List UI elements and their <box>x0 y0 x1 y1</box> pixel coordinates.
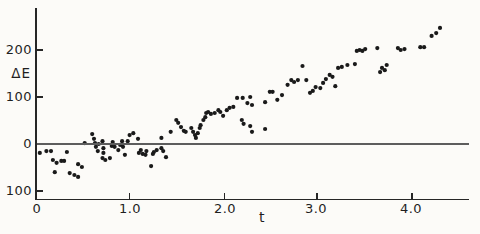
data-point <box>123 153 127 157</box>
data-point <box>80 165 84 169</box>
x-tick-2 <box>224 193 226 200</box>
data-point <box>275 98 279 102</box>
x-axis-line <box>35 199 469 201</box>
data-point <box>76 175 80 179</box>
data-point <box>402 47 406 51</box>
data-point <box>385 63 389 67</box>
data-point <box>250 130 254 134</box>
data-point <box>378 70 382 74</box>
data-point <box>245 101 249 105</box>
x-tick-label-1: 1.0 <box>116 202 144 216</box>
data-point <box>280 93 284 97</box>
data-point <box>96 149 100 153</box>
data-point <box>164 155 168 159</box>
data-point <box>136 137 140 141</box>
data-point <box>55 161 59 165</box>
data-point <box>330 75 334 79</box>
data-point <box>311 89 315 93</box>
data-point <box>231 105 235 109</box>
data-point <box>159 136 163 140</box>
y-axis-title: ΔE <box>0 66 31 81</box>
data-point <box>184 130 188 134</box>
data-point <box>248 95 252 99</box>
data-point <box>336 66 340 70</box>
data-point <box>101 151 105 155</box>
y-tick-label-neg-100: 100 <box>0 184 32 198</box>
data-point <box>179 125 183 129</box>
data-point <box>292 80 296 84</box>
data-point <box>51 158 55 162</box>
data-point <box>113 145 117 149</box>
data-point <box>250 103 254 107</box>
data-point <box>209 112 213 116</box>
data-point <box>318 86 322 90</box>
data-point <box>155 148 159 152</box>
data-point <box>116 148 120 152</box>
data-point <box>144 149 148 153</box>
data-point <box>324 77 328 81</box>
data-point <box>103 158 107 162</box>
data-point <box>242 122 246 126</box>
data-point <box>176 121 180 125</box>
data-point <box>240 118 244 122</box>
x-tick-label-4: 4.0 <box>397 202 425 216</box>
data-point <box>92 137 96 141</box>
data-point <box>271 90 275 94</box>
data-point <box>72 173 76 177</box>
data-point <box>101 146 105 150</box>
x-tick-label-3: 3.0 <box>302 202 330 216</box>
zero-line <box>36 143 469 144</box>
data-point <box>189 126 193 130</box>
data-point <box>194 136 198 140</box>
data-point <box>321 81 325 85</box>
data-point <box>434 31 438 35</box>
data-point <box>65 150 69 154</box>
data-point <box>375 46 379 50</box>
data-point <box>149 164 153 168</box>
scatter-plot: 200 ΔE 100 0 100 0 1.0 2.0 3.0 4.0 t <box>0 0 480 234</box>
data-point <box>38 151 42 155</box>
data-point <box>418 45 422 49</box>
data-point <box>196 131 200 135</box>
y-tick-100 <box>36 96 43 98</box>
x-tick-1 <box>129 193 131 200</box>
y-tick-label-0: 0 <box>0 137 32 151</box>
y-axis-line <box>35 8 37 200</box>
x-tick-3 <box>316 193 318 200</box>
data-point <box>345 63 349 67</box>
data-point <box>333 84 337 88</box>
data-point <box>296 78 300 82</box>
data-point <box>131 131 135 135</box>
data-point <box>213 111 217 115</box>
data-point <box>62 159 66 163</box>
data-point <box>90 132 94 136</box>
y-tick-neg-100 <box>36 190 43 192</box>
data-point <box>340 65 344 69</box>
x-tick-label-0: 0 <box>23 202 51 216</box>
data-point <box>143 153 147 157</box>
data-point <box>241 96 245 100</box>
data-point <box>121 145 125 149</box>
data-point <box>263 100 267 104</box>
y-tick-label-100: 100 <box>0 90 32 104</box>
data-point <box>203 115 207 119</box>
data-point <box>108 156 112 160</box>
data-point <box>161 149 165 153</box>
data-point <box>199 123 203 127</box>
y-tick-200 <box>36 49 43 51</box>
data-point <box>383 68 387 72</box>
data-point <box>430 34 434 38</box>
data-point <box>139 148 143 152</box>
data-point <box>44 149 48 153</box>
data-point <box>228 106 232 110</box>
x-tick-label-2: 2.0 <box>211 202 239 216</box>
data-point <box>221 114 225 118</box>
data-point <box>353 62 357 66</box>
data-point <box>76 162 80 166</box>
data-point <box>128 133 132 137</box>
data-point <box>363 47 367 51</box>
data-point <box>399 48 403 52</box>
data-point <box>235 96 239 100</box>
data-point <box>300 64 304 68</box>
data-point <box>422 45 426 49</box>
